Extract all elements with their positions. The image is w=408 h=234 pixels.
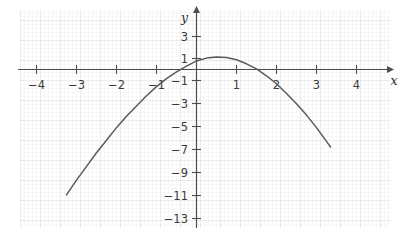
x-tick-label--2: −2 — [108, 78, 125, 92]
y-tick-label--1: −1 — [171, 74, 188, 88]
y-tick-label--7: −7 — [171, 143, 188, 157]
coordinate-graph-figure: −4 −3 −2 −1 1 2 3 4 3 1 −1 −3 −5 −7 −9 −… — [0, 0, 408, 234]
y-tick-label--9: −9 — [171, 166, 188, 180]
x-tick-label-4: 4 — [353, 78, 360, 92]
x-tick-label--1: −1 — [148, 78, 165, 92]
y-axis-name-label: y — [180, 10, 189, 25]
plot-canvas: −4 −3 −2 −1 1 2 3 4 3 1 −1 −3 −5 −7 −9 −… — [0, 0, 408, 234]
y-tick-label-1: 1 — [181, 52, 188, 66]
grid-background — [20, 10, 390, 228]
x-axis-name-label: x — [390, 73, 397, 88]
y-tick-label--5: −5 — [171, 120, 188, 134]
x-tick-label--4: −4 — [28, 78, 45, 92]
y-tick-label--11: −11 — [164, 189, 188, 203]
y-tick-label--3: −3 — [171, 97, 188, 111]
x-tick-label-2: 2 — [273, 78, 280, 92]
x-tick-label-1: 1 — [233, 78, 240, 92]
y-tick-label-3: 3 — [181, 30, 188, 44]
x-tick-label-3: 3 — [313, 78, 320, 92]
x-tick-label--3: −3 — [68, 78, 85, 92]
y-tick-label--13: −13 — [164, 212, 188, 226]
